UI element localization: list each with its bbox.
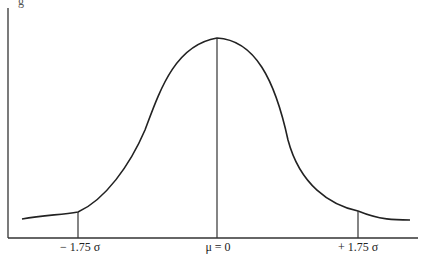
tick-label-minus-sigma: − 1.75 σ [60,240,100,255]
normal-curve [22,38,410,220]
tick-label-plus-sigma: + 1.75 σ [338,240,378,255]
bell-curve-chart [0,0,425,259]
tick-label-mean: μ = 0 [205,240,230,255]
